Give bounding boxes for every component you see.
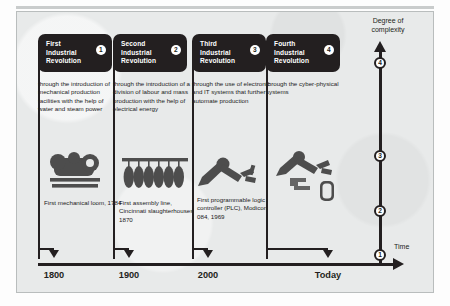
connector-2-to-pill [113, 47, 121, 49]
complexity-axis-arrowhead [374, 41, 386, 52]
stage-badge-3: 3 [250, 45, 260, 55]
connector-4-to-pill [266, 47, 274, 49]
stage-title-2-line3: Revolution [121, 57, 169, 66]
time-tick-arrow-4 [323, 250, 333, 258]
complexity-axis-label-line2: complexity [371, 26, 404, 33]
connector-3-to-pill [192, 47, 200, 49]
stage-title-1-line1: First [46, 40, 94, 49]
stage-header-3[interactable]: Third Industrial Revolution 3 [192, 34, 266, 72]
stage-title-4-line2: Industrial [274, 49, 322, 58]
stage-title-1-line2: Industrial [46, 49, 94, 58]
connector-1-to-pill [38, 47, 48, 49]
stage-title-1-line3: Revolution [46, 57, 94, 66]
stage-description-3: through the use of electronic and IT sys… [192, 80, 272, 106]
complexity-marker-2: 2 [374, 205, 386, 217]
complexity-marker-3: 3 [374, 150, 386, 162]
year-tick-label-today: Today [298, 270, 358, 280]
mechanical-loom-icon [44, 152, 114, 198]
stage-title-4-line1: Fourth [274, 40, 322, 49]
stage-title-3-line2: Industrial [200, 49, 248, 58]
connector-3-vertical [192, 47, 194, 259]
time-tick-arrow-3 [203, 250, 213, 258]
time-tick-arrow-1 [49, 250, 59, 258]
complexity-axis-label-line1: Degree of [373, 17, 404, 24]
stage-title-3-line3: Revolution [200, 57, 248, 66]
stage-caption-1: First mechanical loom, 1784 [44, 199, 124, 207]
stage-badge-4: 4 [324, 45, 334, 55]
year-tick-label-1800: 1800 [24, 270, 84, 280]
stage-description-2: through the introduction of a division o… [113, 80, 193, 114]
stage-badge-1: 1 [96, 45, 106, 55]
complexity-marker-1: 1 [374, 249, 386, 261]
figure-container: First Industrial Revolution 1 through th… [0, 0, 450, 306]
stage-title-2-line1: Second [121, 40, 169, 49]
stage-description-1: through the introduction of mechanical p… [38, 80, 118, 114]
cyber-physical-robot-icon [272, 148, 352, 208]
scan-band [16, 6, 434, 9]
stage-header-2[interactable]: Second Industrial Revolution 2 [113, 34, 187, 72]
stage-caption-2: First assembly line, Cincinnati slaughte… [119, 199, 199, 224]
stage-header-1[interactable]: First Industrial Revolution 1 [38, 34, 112, 72]
robot-arm-icon [196, 152, 266, 200]
assembly-line-icon [120, 155, 192, 199]
stage-title-3-line1: Third [200, 40, 248, 49]
stage-description-4: through the cyber-physical systems [266, 80, 346, 97]
stage-header-4[interactable]: Fourth Industrial Revolution 4 [266, 34, 340, 72]
connector-4-to-axis [266, 248, 328, 250]
year-tick-label-2000: 2000 [178, 270, 238, 280]
connector-4-vertical [266, 47, 268, 259]
connector-1-vertical [38, 47, 40, 259]
stage-title-4-line3: Revolution [274, 57, 322, 66]
time-axis-line [38, 263, 396, 266]
time-axis-arrowhead [393, 258, 404, 270]
stage-caption-3: First programmable logic controller (PLC… [197, 196, 277, 221]
time-tick-arrow-2 [124, 250, 134, 258]
connector-2-vertical [113, 47, 115, 259]
complexity-axis-label: Degree of complexity [352, 16, 424, 34]
stage-title-2-line2: Industrial [121, 49, 169, 58]
time-axis-label: Time [394, 243, 409, 250]
stage-badge-2: 2 [171, 45, 181, 55]
year-tick-label-1900: 1900 [99, 270, 159, 280]
complexity-marker-4: 4 [374, 57, 386, 69]
stage-column-4: Fourth Industrial Revolution 4 through t… [266, 34, 358, 97]
